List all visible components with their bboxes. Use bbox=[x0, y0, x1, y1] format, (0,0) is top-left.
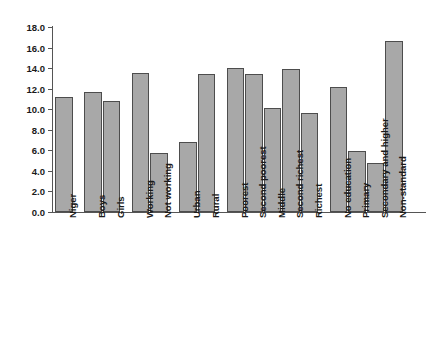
y-axis-tick-label: 2.0 bbox=[0, 186, 45, 197]
y-axis-tick-mark bbox=[48, 191, 53, 192]
y-axis-tick-label: 14.0 bbox=[0, 63, 45, 74]
bar-chart: 18.016.014.012.010.08.06.04.02.00.0 Nige… bbox=[0, 0, 432, 345]
y-axis-tick-label: 10.0 bbox=[0, 104, 45, 115]
x-axis-tick-label: Primary bbox=[360, 183, 371, 218]
x-axis-tick-label: Urban bbox=[191, 191, 202, 218]
x-axis-labels: NigerBoysGirlsWorkingNot workingUrbanRur… bbox=[53, 218, 425, 343]
x-axis-tick-label: Secondary and higher bbox=[379, 118, 390, 218]
x-axis-tick-label: Poorest bbox=[239, 183, 250, 218]
y-axis-tick-mark bbox=[48, 68, 53, 69]
x-axis-tick-label: No education bbox=[342, 158, 353, 218]
y-axis-tick-label: 0.0 bbox=[0, 207, 45, 218]
y-axis-tick-mark bbox=[48, 150, 53, 151]
x-axis-tick-label: Girls bbox=[115, 196, 126, 218]
x-axis-tick-label: Middle bbox=[276, 188, 287, 218]
y-axis-tick-label: 18.0 bbox=[0, 22, 45, 33]
y-axis-tick-mark bbox=[48, 171, 53, 172]
y-axis-tick-mark bbox=[48, 109, 53, 110]
y-axis-tick-label: 16.0 bbox=[0, 42, 45, 53]
x-axis-tick-label: Non-standard bbox=[397, 156, 408, 218]
y-axis-tick-mark bbox=[48, 212, 53, 213]
y-axis-tick-mark bbox=[48, 130, 53, 131]
y-axis-tick-label: 12.0 bbox=[0, 83, 45, 94]
x-axis-tick-label: Second poorest bbox=[257, 146, 268, 218]
y-axis-tick-mark bbox=[48, 27, 53, 28]
x-axis-tick-label: Rural bbox=[210, 194, 221, 218]
x-axis-tick-label: Second richest bbox=[294, 150, 305, 218]
y-axis-tick-mark bbox=[48, 89, 53, 90]
x-axis-tick-label: Boys bbox=[96, 195, 107, 218]
x-axis-tick-label: Not working bbox=[162, 163, 173, 218]
x-axis-tick-label: Working bbox=[144, 180, 155, 218]
y-axis-tick-label: 8.0 bbox=[0, 124, 45, 135]
y-axis-tick-label: 6.0 bbox=[0, 145, 45, 156]
x-axis-tick-label: Niger bbox=[67, 194, 78, 218]
y-axis-tick-label: 4.0 bbox=[0, 165, 45, 176]
x-axis-tick-label: Richest bbox=[313, 184, 324, 218]
y-axis-tick-mark bbox=[48, 48, 53, 49]
